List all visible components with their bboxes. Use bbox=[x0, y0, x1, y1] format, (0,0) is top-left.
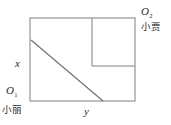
label-origin-two-symbol: O bbox=[141, 5, 149, 17]
label-origin-one-symbol: O bbox=[6, 84, 14, 96]
label-origin-two-subscript: 2 bbox=[149, 12, 152, 19]
label-origin-two: O2 bbox=[141, 6, 152, 17]
label-origin-one: O1 bbox=[6, 85, 17, 96]
label-side-x: x bbox=[15, 58, 20, 69]
label-side-y: y bbox=[84, 106, 89, 117]
label-person-xiaojia: 小贾 bbox=[141, 22, 161, 32]
geometry-figure: O2 小贾 O1 小丽 x y bbox=[0, 0, 171, 125]
label-origin-one-subscript: 1 bbox=[14, 91, 17, 98]
label-person-xiaoli: 小丽 bbox=[2, 105, 22, 115]
outer-rectangle bbox=[30, 18, 135, 101]
